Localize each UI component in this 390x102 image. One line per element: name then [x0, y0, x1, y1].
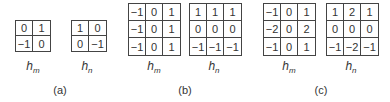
- kernel-cell: −1: [224, 38, 241, 55]
- kernel-cell: 0: [146, 38, 163, 55]
- kernel-cell: 1: [298, 38, 315, 55]
- kernel-cell: −1: [361, 38, 378, 55]
- kernel-cell: 2: [298, 21, 315, 38]
- kernel-cell: −1: [129, 21, 146, 38]
- kernel-cell: 0: [16, 21, 33, 36]
- kernel-cell: 2: [344, 4, 361, 21]
- panel-b-hm-kernel: −1 0 1 −1 0 1 −1 0 1: [128, 3, 181, 56]
- panel-a-hn-kernel: 1 0 0 −1: [71, 20, 107, 52]
- panel-c-hn-label: hn: [345, 59, 356, 75]
- kernel-cell: −2: [344, 38, 361, 55]
- kernel-cell: 0: [190, 21, 207, 38]
- panel-c-hm-label: hm: [282, 59, 295, 75]
- panel-b-hn-label: hn: [208, 59, 219, 75]
- panel-a-hn-label: hn: [81, 59, 92, 75]
- kernel-cell: −1: [16, 36, 33, 51]
- kernel-cell: 1: [163, 38, 180, 55]
- panel-a-caption: (a): [53, 84, 66, 96]
- kernel-cell: 1: [327, 4, 344, 21]
- kernel-cell: 0: [281, 4, 298, 21]
- kernel-cell: 1: [163, 4, 180, 21]
- panel-a-hm-kernel: 0 1 −1 0: [15, 20, 51, 52]
- kernel-cell: 1: [207, 4, 224, 21]
- kernel-cell: 1: [361, 4, 378, 21]
- panel-a-hm-label: hm: [26, 59, 39, 75]
- kernel-cell: 1: [33, 21, 50, 36]
- panel-b-hn-kernel: 1 1 1 0 0 0 −1 −1 −1: [189, 3, 242, 56]
- kernel-cell: 0: [146, 4, 163, 21]
- kernel-cell: 0: [281, 38, 298, 55]
- kernel-cell: −1: [89, 36, 106, 51]
- kernel-cell: 0: [224, 21, 241, 38]
- kernel-cell: 1: [224, 4, 241, 21]
- kernel-cell: −1: [264, 38, 281, 55]
- kernel-cell: 0: [361, 21, 378, 38]
- kernel-cell: 0: [327, 21, 344, 38]
- kernel-cell: −1: [129, 38, 146, 55]
- kernel-cell: 1: [190, 4, 207, 21]
- kernel-cell: 0: [33, 36, 50, 51]
- kernel-cell: 0: [89, 21, 106, 36]
- kernel-cell: 0: [72, 36, 89, 51]
- panel-b-hm-label: hm: [147, 59, 160, 75]
- kernel-cell: 1: [72, 21, 89, 36]
- kernel-cell: −1: [129, 4, 146, 21]
- kernel-cell: −2: [264, 21, 281, 38]
- kernel-cell: 1: [298, 4, 315, 21]
- kernel-cell: 0: [344, 21, 361, 38]
- kernel-cell: −1: [264, 4, 281, 21]
- kernel-cell: 0: [281, 21, 298, 38]
- panel-c-hm-kernel: −1 0 1 −2 0 2 −1 0 1: [263, 3, 316, 56]
- panel-c-hn-kernel: 1 2 1 0 0 0 −1 −2 −1: [326, 3, 379, 56]
- kernel-cell: 0: [207, 21, 224, 38]
- kernel-cell: −1: [327, 38, 344, 55]
- kernel-cell: −1: [190, 38, 207, 55]
- panel-c-caption: (c): [315, 84, 328, 96]
- panel-b-caption: (b): [178, 84, 191, 96]
- kernel-cell: 0: [146, 21, 163, 38]
- kernel-cell: 1: [163, 21, 180, 38]
- kernel-cell: −1: [207, 38, 224, 55]
